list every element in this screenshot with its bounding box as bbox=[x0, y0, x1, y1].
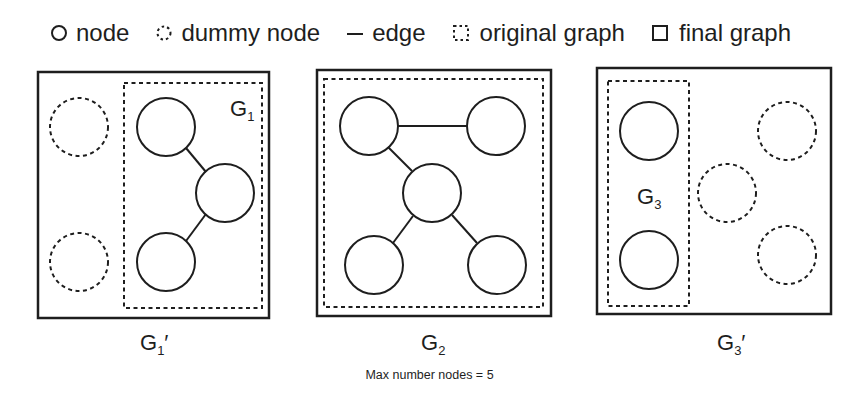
edge bbox=[186, 148, 206, 172]
final-graph-box bbox=[597, 68, 831, 314]
panel-g3 bbox=[597, 68, 831, 314]
node bbox=[468, 236, 526, 294]
label-final-g3: G3′ bbox=[717, 330, 745, 358]
panel-g2 bbox=[317, 70, 551, 316]
dummy-node bbox=[758, 226, 816, 284]
node bbox=[403, 164, 461, 222]
node bbox=[345, 236, 403, 294]
label-final-g1: G1′ bbox=[140, 330, 168, 358]
node bbox=[137, 98, 195, 156]
dummy-node bbox=[758, 102, 816, 160]
edge bbox=[452, 215, 477, 243]
node bbox=[467, 97, 525, 155]
node bbox=[620, 102, 678, 160]
label-g2: G2 bbox=[421, 330, 445, 358]
edge bbox=[186, 214, 206, 241]
graph-padding-diagram: G1 G1′ G2 G3 G3′ bbox=[0, 0, 859, 394]
label-original-g3: G3 bbox=[637, 184, 661, 212]
dummy-node bbox=[698, 164, 756, 222]
node bbox=[620, 231, 678, 289]
final-graph-box bbox=[317, 70, 551, 316]
node bbox=[137, 233, 195, 291]
node bbox=[340, 97, 398, 155]
label-original-g1: G1 bbox=[230, 96, 254, 124]
edge bbox=[393, 216, 413, 243]
dummy-node bbox=[50, 233, 108, 291]
original-graph-box bbox=[324, 79, 543, 307]
edge bbox=[388, 147, 412, 171]
caption: Max number nodes = 5 bbox=[0, 368, 859, 382]
node bbox=[196, 164, 254, 222]
dummy-node bbox=[50, 98, 108, 156]
